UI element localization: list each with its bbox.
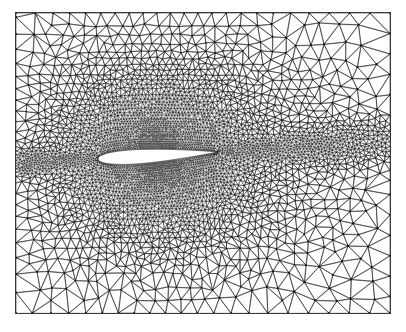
airfoil-mesh-canvas bbox=[0, 0, 406, 332]
mesh-figure bbox=[0, 0, 406, 332]
